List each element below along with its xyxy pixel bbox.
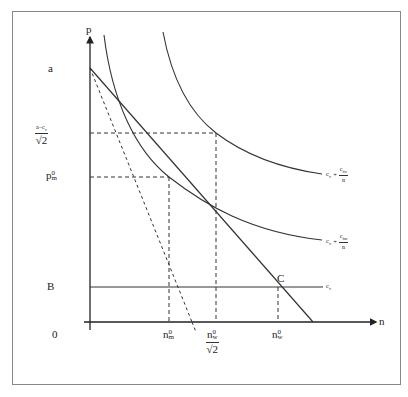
x-tick-nw0: n0w bbox=[272, 329, 283, 341]
cfm-c-sub: v bbox=[329, 241, 331, 246]
y-axis-label: p bbox=[86, 24, 92, 35]
cfw-c-sub: v bbox=[329, 174, 331, 179]
curve-cfm bbox=[104, 35, 322, 240]
marginal-line-dashed-ext bbox=[192, 322, 196, 332]
cfw-den: n bbox=[342, 176, 345, 183]
curve-cfw-label: cv + cfw n bbox=[326, 166, 348, 183]
curve-cfm-label: cv + cfm n bbox=[326, 233, 348, 250]
y-tick-a: a bbox=[48, 63, 53, 74]
pm0-sub: m bbox=[52, 176, 57, 182]
cv-sub: v bbox=[329, 286, 331, 291]
y-tick-B: B bbox=[47, 281, 54, 292]
y-tick-a-minus-cv-over-sqrt2: a−cv √2 bbox=[35, 124, 48, 146]
cfm-num-sub: fm bbox=[343, 236, 348, 241]
cfw-plus: + bbox=[333, 171, 337, 178]
nw0s-den: √2 bbox=[207, 343, 219, 355]
x-tick-nm0: n0m bbox=[163, 329, 174, 341]
x-tick-nw0-over-sqrt2: n0w √2 bbox=[206, 329, 219, 355]
nw0-sub: w bbox=[278, 335, 283, 341]
point-C-label: C bbox=[277, 273, 284, 284]
y-tick-pm0: p0m bbox=[46, 170, 57, 182]
cfm-den: n bbox=[342, 243, 345, 250]
curve-cfw bbox=[163, 32, 322, 174]
frac-den: √2 bbox=[36, 134, 48, 146]
cv-line-label: cv bbox=[326, 282, 331, 291]
marginal-line-dashed bbox=[90, 68, 192, 322]
x-axis-label: n bbox=[379, 316, 385, 327]
cfm-plus: + bbox=[333, 238, 337, 245]
origin-label: 0 bbox=[52, 329, 58, 340]
nw0s-sub: w bbox=[213, 335, 218, 341]
diagram-canvas bbox=[0, 0, 408, 397]
nm0-sub: m bbox=[169, 335, 174, 341]
cfw-num-sub: fw bbox=[343, 169, 347, 174]
frac-num: a−c bbox=[36, 124, 45, 130]
frac-num-sub: v bbox=[45, 127, 47, 132]
